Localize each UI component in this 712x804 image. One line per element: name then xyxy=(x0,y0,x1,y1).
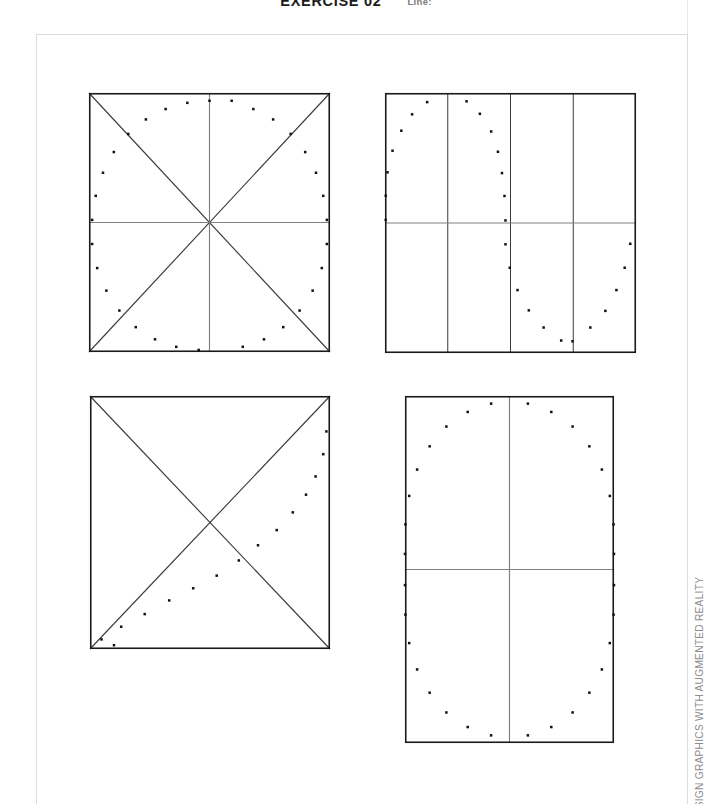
exercise-title: EXERCISE 02 xyxy=(280,0,381,9)
sheet-frame xyxy=(36,34,688,804)
running-footer: Visualization & Engineering Design Graph… xyxy=(689,360,711,790)
running-footer-text: Visualization & Engineering Design Graph… xyxy=(695,577,706,804)
exercise-subtitle: Line: xyxy=(407,0,431,7)
page-header: EXERCISE 02 Line: xyxy=(0,0,712,11)
